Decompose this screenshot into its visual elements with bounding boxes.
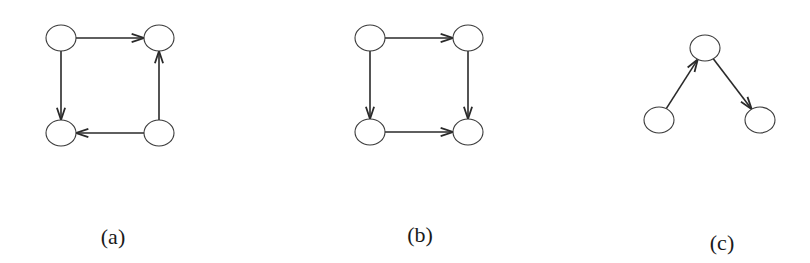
- edge-line: [713, 59, 751, 109]
- panel-c: [644, 35, 775, 133]
- node-a-br: [144, 120, 174, 146]
- node-c-top: [690, 35, 720, 61]
- edge-b-tr-to-b-br: [464, 51, 472, 119]
- node-a-bl: [46, 120, 76, 146]
- edge-a-br-to-a-tr: [155, 51, 163, 120]
- node-b-tl: [355, 25, 385, 51]
- panel-a: [46, 25, 174, 146]
- edge-a-tl-to-a-bl: [57, 51, 65, 120]
- node-b-tr: [453, 25, 483, 51]
- node-c-bl: [644, 107, 674, 133]
- node-c-br: [745, 107, 775, 133]
- node-a-tl: [46, 25, 76, 51]
- edge-b-tl-to-b-tr: [385, 34, 453, 42]
- node-b-bl: [355, 119, 385, 145]
- edge-a-tl-to-a-tr: [76, 34, 144, 42]
- edge-c-top-to-c-br: [713, 59, 751, 109]
- node-b-br: [453, 119, 483, 145]
- arrowhead-icon: [688, 59, 698, 72]
- edge-line: [666, 59, 697, 108]
- edge-b-bl-to-b-br: [385, 128, 453, 136]
- edge-b-tl-to-b-bl: [366, 51, 374, 119]
- edge-a-br-to-a-bl: [76, 129, 144, 137]
- caption-c: (c): [710, 230, 734, 256]
- node-a-tr: [144, 25, 174, 51]
- caption-b: (b): [407, 222, 433, 248]
- caption-a: (a): [101, 224, 125, 250]
- edge-c-bl-to-c-top: [666, 59, 697, 108]
- panel-b: [355, 25, 483, 145]
